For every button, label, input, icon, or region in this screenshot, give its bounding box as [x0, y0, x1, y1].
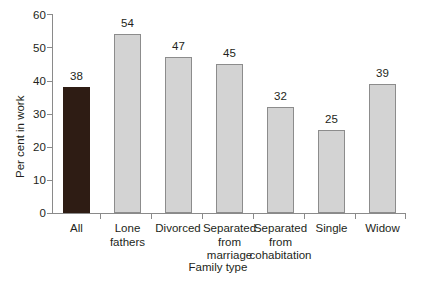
bar-value-single: 25	[305, 113, 358, 125]
x-tick-2	[151, 214, 152, 219]
y-axis-line	[52, 14, 53, 214]
x-category-label-all-line-1: All	[50, 222, 103, 236]
x-tick-7	[405, 214, 406, 219]
y-tick-label-10: 10	[22, 174, 46, 186]
bar-separated-from-cohabitation	[267, 107, 294, 213]
x-category-label-lone-fathers: Lone fathers	[101, 222, 154, 249]
y-tick-label-40: 40	[22, 75, 46, 87]
y-tick-label-60: 60	[22, 9, 46, 21]
bar-value-widow: 39	[356, 67, 409, 79]
y-tick-label-30: 30	[22, 108, 46, 120]
bar-widow	[369, 84, 396, 213]
bar-value-all: 38	[50, 70, 103, 82]
x-category-label-widow-line-1: Widow	[356, 222, 409, 236]
y-tick-60	[47, 14, 52, 15]
x-category-label-lone-fathers-line-2: fathers	[101, 236, 154, 250]
bar-value-separated-from-marriage: 45	[203, 47, 256, 59]
x-axis-line	[52, 213, 406, 214]
y-tick-label-0: 0	[22, 207, 46, 219]
x-tick-3	[202, 214, 203, 219]
x-tick-6	[355, 214, 356, 219]
x-axis-title: Family type	[168, 261, 268, 273]
bar-value-separated-from-cohabitation: 32	[254, 90, 307, 102]
bar-separated-from-marriage	[216, 64, 243, 213]
y-tick-label-20: 20	[22, 141, 46, 153]
y-tick-50	[47, 47, 52, 48]
x-category-label-separated-from-cohabitation-line-2: from	[243, 236, 318, 250]
x-category-label-single-line-1: Single	[305, 222, 358, 236]
x-category-label-all: All	[50, 222, 103, 236]
y-tick-10	[47, 180, 52, 181]
x-category-label-widow: Widow	[356, 222, 409, 236]
bar-divorced	[165, 57, 192, 213]
x-category-label-single: Single	[305, 222, 358, 236]
bar-single	[318, 130, 345, 213]
y-tick-label-50: 50	[22, 42, 46, 54]
x-tick-5	[304, 214, 305, 219]
x-category-label-lone-fathers-line-1: Lone	[101, 222, 154, 236]
x-tick-4	[253, 214, 254, 219]
bar-value-lone-fathers: 54	[101, 17, 154, 29]
bar-all	[63, 87, 90, 213]
bar-value-divorced: 47	[152, 40, 205, 52]
x-tick-1	[100, 214, 101, 219]
bar-chart: Per cent in work 0 10 20 30 40 50 60 38 …	[0, 0, 422, 285]
bar-lone-fathers	[114, 34, 141, 213]
y-tick-30	[47, 114, 52, 115]
y-tick-20	[47, 147, 52, 148]
